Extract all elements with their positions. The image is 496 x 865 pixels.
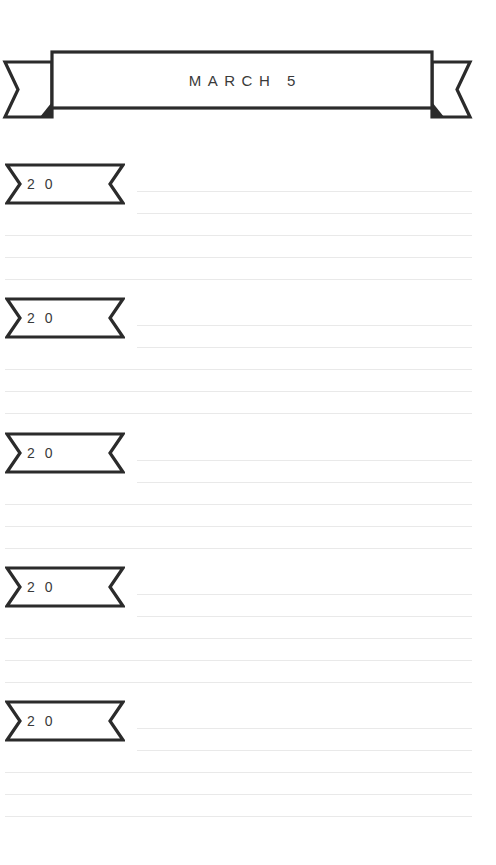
writing-rule-line[interactable] [5,526,472,527]
writing-rule-line[interactable] [5,660,472,661]
writing-rule-line[interactable] [137,460,472,461]
writing-rule-line[interactable] [137,728,472,729]
writing-rule-line[interactable] [5,369,472,370]
year-label[interactable]: 2 0 [5,432,125,474]
journal-page: MARCH 5 2 02 02 02 02 0 [0,0,496,865]
writing-rule-line[interactable] [137,213,472,214]
journal-entry-section: 2 0 [0,700,496,834]
writing-rule-line[interactable] [5,257,472,258]
writing-rule-line[interactable] [5,504,472,505]
journal-entry-section: 2 0 [0,566,496,700]
year-label[interactable]: 2 0 [5,297,125,339]
writing-rule-line[interactable] [137,482,472,483]
writing-rule-line[interactable] [5,391,472,392]
writing-rule-line[interactable] [137,594,472,595]
writing-rule-line[interactable] [5,682,472,683]
year-label[interactable]: 2 0 [5,163,125,205]
writing-rule-line[interactable] [5,638,472,639]
journal-entry-section: 2 0 [0,297,496,431]
writing-rule-line[interactable] [5,794,472,795]
writing-rule-line[interactable] [137,325,472,326]
writing-rule-line[interactable] [137,750,472,751]
page-title: MARCH 5 [52,52,432,108]
writing-rule-line[interactable] [5,235,472,236]
year-label[interactable]: 2 0 [5,566,125,608]
writing-rule-line[interactable] [5,548,472,549]
journal-entry-section: 2 0 [0,163,496,297]
writing-rule-line[interactable] [137,347,472,348]
writing-rule-line[interactable] [137,616,472,617]
writing-rule-line[interactable] [5,772,472,773]
journal-entry-section: 2 0 [0,432,496,566]
writing-rule-line[interactable] [5,816,472,817]
writing-rule-line[interactable] [5,279,472,280]
writing-rule-line[interactable] [5,413,472,414]
writing-rule-line[interactable] [137,191,472,192]
year-label[interactable]: 2 0 [5,700,125,742]
